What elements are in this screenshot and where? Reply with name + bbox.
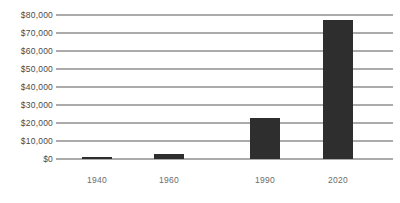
x-tick-label-1960: 1960	[159, 175, 179, 185]
bar-chart: $80,000 $70,000 $60,000 $50,000 $40,000 …	[0, 0, 400, 203]
bar-1960	[154, 154, 184, 159]
x-tick-label-1990: 1990	[255, 175, 275, 185]
plot-area	[0, 0, 400, 203]
x-tick-label-2020: 2020	[328, 175, 348, 185]
bar-1990	[250, 118, 280, 159]
x-tick-label-1940: 1940	[87, 175, 107, 185]
bar-2020	[323, 20, 353, 160]
bar-1940	[82, 157, 112, 159]
